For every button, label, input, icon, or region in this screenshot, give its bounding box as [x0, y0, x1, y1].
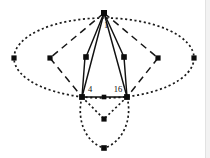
vee-vertex-node[interactable]: [101, 116, 106, 121]
graph-diagram: 1 4 16: [0, 0, 210, 158]
mid-inner-right-node[interactable]: [121, 54, 127, 60]
ellipse-left-node[interactable]: [11, 55, 16, 60]
figure-container: 1 4 16: [0, 0, 210, 158]
mid-right-node[interactable]: [155, 55, 160, 60]
ellipse-outer-cycle: [14, 18, 194, 98]
page-edge-gutter: [205, 0, 210, 158]
base-middle-node[interactable]: [102, 95, 107, 100]
edge-mid-right-to-base-right: [127, 58, 158, 97]
mid-inner-left-node[interactable]: [83, 54, 89, 60]
base-left-node[interactable]: [79, 94, 85, 100]
mid-left-node[interactable]: [47, 55, 52, 60]
ellipse-right-node[interactable]: [191, 55, 196, 60]
lower-lens-right-arc: [104, 97, 129, 148]
apex-node[interactable]: [101, 10, 107, 16]
bottom-node[interactable]: [101, 145, 107, 151]
edge-base-right-to-vee: [104, 97, 127, 119]
edge-apex-to-mid-left: [50, 13, 104, 58]
right-base-edge-label: 16: [114, 84, 123, 94]
base-right-node[interactable]: [124, 94, 130, 100]
apex-edge-label: 1: [104, 20, 108, 30]
left-base-edge-label: 4: [88, 84, 93, 94]
edge-base-left-to-vee: [82, 97, 104, 119]
lower-lens-left-arc: [80, 97, 104, 148]
edge-apex-to-mid-inner-left: [86, 13, 104, 57]
